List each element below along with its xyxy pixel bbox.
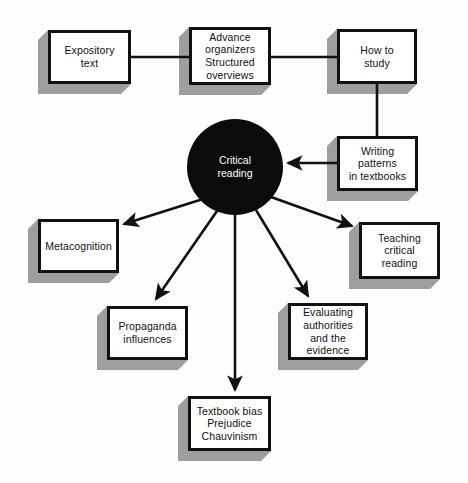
node-label-propaganda-influences: Propaganda influences	[116, 320, 178, 345]
concept-map-diagram: Critical reading Expository text Advance…	[0, 0, 468, 483]
node-textbook-bias[interactable]: Textbook bias Prejudice Chauvinism	[188, 396, 271, 451]
node-advance-organizers[interactable]: Advance organizers Structured overviews	[189, 27, 271, 85]
connector-hub-to-teaching	[271, 197, 352, 226]
node-label-teaching-critical-reading: Teaching critical reading	[376, 232, 423, 270]
node-label-how-to-study: How to study	[358, 44, 395, 69]
hub-label: Critical reading	[217, 154, 252, 179]
node-label-advance-organizers: Advance organizers Structured overviews	[203, 31, 257, 81]
node-metacognition[interactable]: Metacognition	[38, 219, 119, 273]
node-label-writing-patterns: Writing patterns in textbooks	[347, 145, 408, 183]
node-writing-patterns[interactable]: Writing patterns in textbooks	[337, 136, 418, 191]
connector-hub-to-evaluating	[256, 210, 308, 296]
hub-critical-reading[interactable]: Critical reading	[187, 119, 283, 215]
connector-hub-to-propaganda	[156, 211, 217, 299]
node-expository-text[interactable]: Expository text	[48, 30, 131, 84]
node-label-metacognition: Metacognition	[43, 240, 114, 253]
node-label-evaluating-authorities: Evaluating authorities and the evidence	[301, 306, 355, 356]
node-label-expository-text: Expository text	[62, 44, 116, 69]
node-how-to-study[interactable]: How to study	[337, 29, 417, 84]
node-propaganda-influences[interactable]: Propaganda influences	[107, 306, 188, 360]
node-evaluating-authorities[interactable]: Evaluating authorities and the evidence	[288, 303, 368, 360]
connector-hub-to-metacognition	[124, 199, 203, 224]
node-label-textbook-bias: Textbook bias Prejudice Chauvinism	[195, 405, 265, 443]
node-teaching-critical-reading[interactable]: Teaching critical reading	[359, 222, 440, 279]
